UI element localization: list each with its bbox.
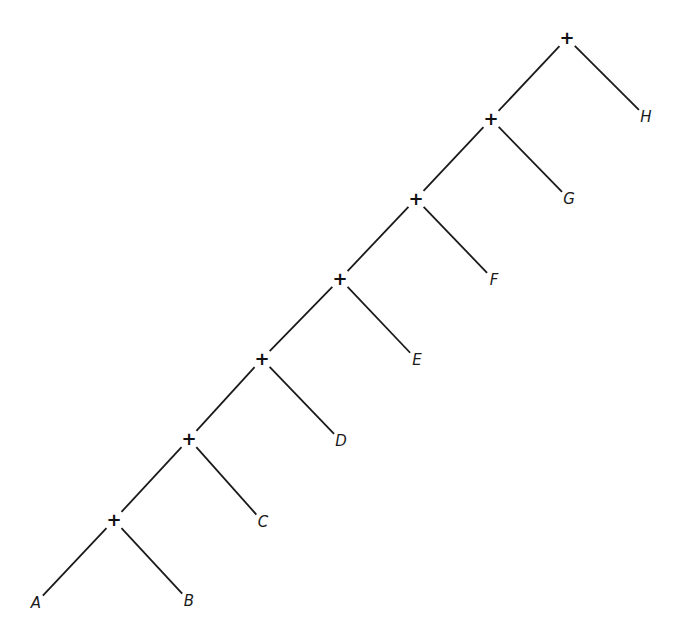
tree-edge xyxy=(424,127,484,191)
leaf-label-d: D xyxy=(335,434,347,449)
tree-edge xyxy=(499,46,560,111)
tree-edge xyxy=(270,367,334,434)
leaf-label-e: E xyxy=(412,353,421,368)
tree-edge xyxy=(196,367,254,431)
tree-edge xyxy=(196,447,256,514)
tree-edges xyxy=(0,0,678,632)
tree-edge xyxy=(348,207,409,271)
tree-edge xyxy=(499,127,562,192)
tree-edge xyxy=(270,287,333,351)
plus-operator-node: + xyxy=(106,511,121,529)
leaf-label-h: H xyxy=(640,110,651,125)
tree-edge xyxy=(121,528,182,594)
tree-edge xyxy=(43,528,107,596)
tree-edge xyxy=(575,46,639,110)
plus-operator-node: + xyxy=(181,430,196,448)
leaf-label-b: B xyxy=(184,594,194,609)
leaf-label-c: C xyxy=(258,515,268,530)
tree-diagram: +++++++ABCDEFGH xyxy=(0,0,678,632)
tree-edge xyxy=(424,207,487,273)
leaf-label-f: F xyxy=(490,273,499,288)
plus-operator-node: + xyxy=(559,29,574,47)
tree-edge xyxy=(348,287,411,353)
plus-operator-node: + xyxy=(408,190,423,208)
plus-operator-node: + xyxy=(483,110,498,128)
plus-operator-node: + xyxy=(332,270,347,288)
leaf-label-a: A xyxy=(31,596,41,611)
tree-edge xyxy=(121,447,181,512)
leaf-label-g: G xyxy=(563,192,575,207)
plus-operator-node: + xyxy=(254,350,269,368)
